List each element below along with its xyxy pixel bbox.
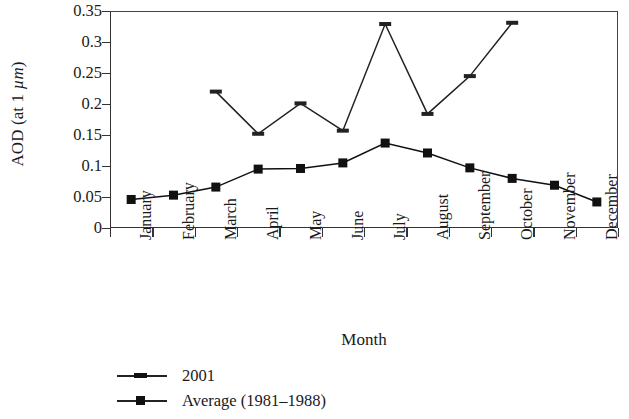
y-axis-title-prefix: AOD (at 1 <box>8 90 27 167</box>
legend-label: Average (1981–1988) <box>172 391 326 411</box>
y-axis-tick-label: 0.05 <box>46 189 102 205</box>
y-axis-tick-label: 0.1 <box>46 158 102 174</box>
data-point-marker <box>464 74 476 78</box>
y-axis-tick-label: 0.3 <box>46 34 102 50</box>
data-point-marker <box>127 195 136 204</box>
x-axis-tick-label: June <box>349 120 367 240</box>
data-point-marker <box>508 174 517 183</box>
data-point-marker <box>337 129 349 133</box>
x-axis-tick-label: July <box>391 120 409 240</box>
data-point-marker <box>465 163 474 172</box>
chart-legend: 2001 Average (1981–1988) <box>114 363 454 413</box>
legend-label: 2001 <box>172 366 215 386</box>
y-axis-title-unit: µm <box>8 67 27 89</box>
y-axis-tick-label: 0.2 <box>46 96 102 112</box>
legend-item-2001: 2001 <box>114 363 454 388</box>
y-axis-tick-labels: 00.050.10.150.20.250.30.35 <box>46 0 102 240</box>
x-axis-title: Month <box>110 330 618 350</box>
aod-monthly-line-chart: AOD (at 1 µm) 00.050.10.150.20.250.30.35… <box>0 0 629 419</box>
x-axis-tick <box>110 228 111 237</box>
data-point-marker <box>422 112 434 116</box>
y-axis-tick-label: 0.25 <box>46 65 102 81</box>
x-axis-tick-label: March <box>222 120 240 240</box>
legend-key-dash-icon <box>114 366 172 386</box>
data-point-marker <box>379 22 391 26</box>
x-axis-tick-labels: JanuaryFebruaryMarchAprilMayJuneJulyAugu… <box>110 238 618 334</box>
data-point-marker <box>211 183 220 192</box>
legend-item-average: Average (1981–1988) <box>114 388 454 413</box>
x-axis-tick-label: May <box>307 120 325 240</box>
legend-key-square-icon <box>114 391 172 411</box>
x-axis-tick-label: October <box>518 120 536 240</box>
y-axis-tick-label: 0 <box>46 220 102 236</box>
data-point-marker <box>592 197 601 206</box>
data-point-marker <box>169 191 178 200</box>
data-point-marker <box>338 158 347 167</box>
data-point-marker <box>296 164 305 173</box>
x-axis-tick-label: September <box>476 120 494 240</box>
x-axis-tick-label: December <box>603 120 621 240</box>
data-point-marker <box>381 139 390 148</box>
data-point-marker <box>550 181 559 190</box>
x-axis-tick-label: January <box>137 120 155 240</box>
y-axis-tick-label: 0.35 <box>46 3 102 19</box>
data-point-marker <box>252 132 264 136</box>
y-axis-title: AOD (at 1 µm) <box>8 34 28 194</box>
data-point-marker <box>506 21 518 25</box>
x-axis-tick-label: April <box>264 120 282 240</box>
x-axis-tick-label: August <box>434 120 452 240</box>
x-axis-tick-label: November <box>561 120 579 240</box>
data-point-marker <box>254 165 263 174</box>
y-axis-tick-label: 0.15 <box>46 127 102 143</box>
series-line-dash <box>216 23 512 134</box>
data-point-marker <box>210 90 222 94</box>
x-axis-tick-label: February <box>180 120 198 240</box>
y-axis-title-suffix: ) <box>8 61 27 67</box>
data-point-marker <box>423 148 432 157</box>
data-point-marker <box>295 101 307 105</box>
